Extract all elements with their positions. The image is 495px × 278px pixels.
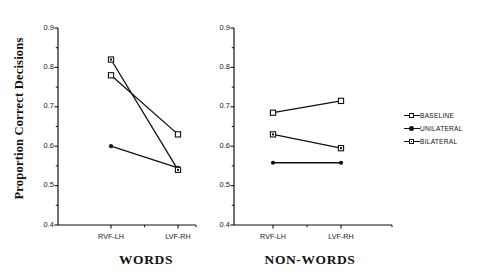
figure-canvas: Proportion Correct Decisions 0.9 0.8 0.7…: [0, 0, 495, 278]
series-line-unilateral: [111, 146, 178, 168]
marker-center-dot: [272, 133, 274, 135]
legend-label-bilateral: BILATERAL: [420, 138, 457, 145]
legend-item-unilateral: UNILATERAL: [404, 123, 494, 134]
series-line-baseline: [273, 101, 341, 113]
series-group: [108, 57, 343, 173]
series-line-baseline: [111, 75, 178, 134]
axes-group: [55, 28, 393, 229]
marker-baseline: [108, 73, 113, 78]
marker-center-dot: [177, 169, 179, 171]
marker-baseline: [338, 98, 343, 103]
marker-unilateral: [339, 161, 343, 165]
legend: BASELINE UNILATERAL BILATERAL: [404, 110, 494, 149]
legend-marker-unilateral-filled-dot-icon: [404, 123, 420, 134]
legend-label-unilateral: UNILATERAL: [420, 125, 463, 132]
series-line-bilateral: [111, 60, 178, 170]
legend-marker-bilateral-open-square-dot-icon: [404, 136, 420, 147]
legend-marker-baseline-open-square-icon: [404, 110, 420, 121]
series-line-bilateral: [273, 134, 341, 148]
marker-unilateral: [109, 144, 113, 148]
marker-center-dot: [340, 147, 342, 149]
marker-center-dot: [110, 59, 112, 61]
marker-baseline: [175, 132, 180, 137]
marker-baseline: [270, 110, 275, 115]
legend-item-baseline: BASELINE: [404, 110, 494, 121]
legend-item-bilateral: BILATERAL: [404, 136, 494, 147]
legend-label-baseline: BASELINE: [420, 112, 454, 119]
marker-unilateral: [271, 161, 275, 165]
